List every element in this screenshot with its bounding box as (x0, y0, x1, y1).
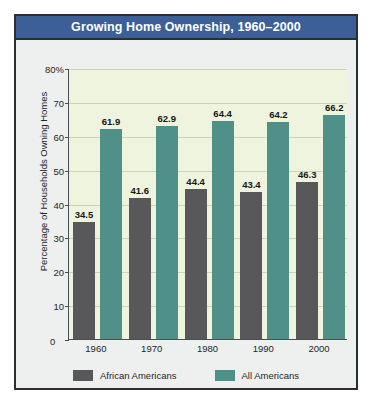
plot-area: 34.561.941.662.944.464.443.464.246.366.2 (68, 69, 347, 340)
y-axis-tick-mark (65, 340, 69, 341)
bar-value-label: 64.4 (213, 108, 232, 119)
bar: 64.2 (267, 122, 289, 339)
bar-value-label: 41.6 (131, 185, 150, 196)
bar-group: 43.464.2 (236, 69, 292, 339)
y-axis-title: Percentage of Households Owning Homes (38, 87, 49, 277)
chart-title-bar: Growing Home Ownership, 1960–2000 (16, 16, 356, 40)
bar-group: 46.366.2 (292, 69, 348, 339)
bar: 44.4 (185, 189, 207, 339)
bar: 66.2 (323, 115, 345, 339)
y-axis-tick-label: 80% (24, 64, 64, 75)
plot-inner: 34.561.941.662.944.464.443.464.246.366.2 (69, 69, 347, 339)
page-title: Growing Home Ownership, 1960–2000 (71, 20, 301, 34)
legend-label: All Americans (242, 370, 300, 381)
chart-body: Percentage of Households Owning Homes 0 … (16, 40, 356, 388)
legend-item: All Americans (215, 370, 300, 381)
bar-group: 44.464.4 (181, 69, 237, 339)
bar-value-label: 61.9 (102, 116, 121, 127)
y-axis-tick-label: 50 (24, 165, 64, 176)
bar: 46.3 (296, 182, 318, 339)
bar: 41.6 (129, 198, 151, 339)
y-axis-tick-label: 20 (24, 267, 64, 278)
bar-group: 34.561.9 (69, 69, 125, 339)
bar-group: 41.662.9 (125, 69, 181, 339)
legend-item: African Americans (73, 370, 177, 381)
y-axis-tick-label: 30 (24, 233, 64, 244)
legend-label: African Americans (100, 370, 177, 381)
bar-value-label: 43.4 (242, 179, 261, 190)
chart-card: Growing Home Ownership, 1960–2000 Percen… (14, 14, 358, 390)
y-axis-zero-label: 0 (50, 336, 55, 347)
bar: 34.5 (73, 222, 95, 339)
bar-value-label: 34.5 (75, 209, 94, 220)
x-axis-tick-label: 2000 (284, 343, 354, 354)
legend-swatch (73, 370, 93, 381)
bar-value-label: 66.2 (325, 102, 344, 113)
bar: 61.9 (100, 129, 122, 339)
bar-value-label: 44.4 (186, 176, 205, 187)
bar: 64.4 (212, 121, 234, 339)
bar-value-label: 62.9 (158, 113, 177, 124)
bar-value-label: 46.3 (298, 169, 317, 180)
bar: 62.9 (156, 126, 178, 339)
y-axis-tick-label: 40 (24, 199, 64, 210)
y-axis-tick-label: 60 (24, 131, 64, 142)
bar: 43.4 (240, 192, 262, 339)
y-axis-tick-label: 70 (24, 97, 64, 108)
bar-value-label: 64.2 (269, 109, 288, 120)
legend-swatch (215, 370, 235, 381)
chart-legend: African AmericansAll Americans (16, 370, 356, 381)
y-axis-tick-label: 10 (24, 301, 64, 312)
